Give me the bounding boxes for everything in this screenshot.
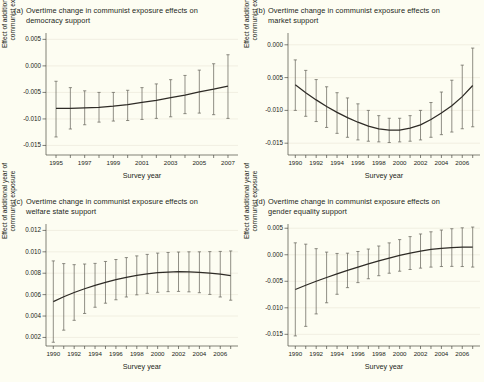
panel-c-y-axis-label: Effect of additional year ofcommunist ex… [1,151,17,251]
y-tick-label-0: 0.005 [246,224,283,231]
x-tick-label-3: 2001 [128,159,156,166]
y-axis-label-line2: communist exposure [9,0,17,60]
panel-c-title: (c)Overtime change in communist exposure… [26,197,238,217]
panel-d-y-axis-label: Effect of additional year ofcommunist ex… [243,151,259,251]
panel-a-title: (a)Overtime change in communist exposure… [26,6,238,26]
figure-container: (a)Overtime change in communist exposure… [0,0,484,382]
fitted-line [295,85,472,130]
panel-b-title: (b)Overtime change in communist exposure… [268,6,480,26]
x-tick-label-2: 1999 [99,159,127,166]
panel-c: (c)Overtime change in communist exposure… [0,191,242,382]
x-tick-label-0: 1995 [42,159,70,166]
panel-a-x-axis-label: Survey year [46,171,238,180]
y-axis-label-line2: communist exposure [251,0,259,60]
panel-d-title: (d)Overtime change in communist exposure… [268,197,480,217]
panel-a-title-line2: democracy support [26,16,238,26]
fitted-line [53,272,230,302]
y-axis-label-line1: Effect of additional year of [1,151,9,251]
x-tick-label-4: 2003 [157,159,185,166]
y-tick-label-3: -0.010 [246,304,283,311]
panel-a-title-line1: Overtime change in communist exposure ef… [26,6,238,16]
panel-b-title-line2: market support [268,16,480,26]
panel-a-y-axis-label: Effect of additional year ofcommunist ex… [1,0,17,60]
y-tick-label-0: 0.000 [246,41,283,48]
panel-c-x-axis-label: Survey year [46,362,238,371]
panel-b: (b)Overtime change in communist exposure… [242,0,484,191]
x-tick-label-5: 2005 [185,159,213,166]
y-axis-label-line1: Effect of additional year of [1,0,9,60]
panel-b-y-axis-label: Effect of additional year ofcommunist ex… [243,0,259,60]
x-tick-label-8: 2006 [448,159,476,166]
panel-d-title-line2: gender equality support [268,207,480,217]
y-tick-label-0: 0.005 [4,35,41,42]
panel-b-title-line1: Overtime change in communist exposure ef… [268,6,480,16]
y-axis-label-line1: Effect of additional year of [243,0,251,60]
x-tick-label-8: 2006 [448,350,476,357]
fitted-line [295,247,472,289]
y-tick-label-3: 0.006 [4,291,41,298]
y-axis-label-line2: communist exposure [9,151,17,251]
y-tick-label-3: -0.015 [246,139,283,146]
panel-b-x-axis-label: Survey year [288,171,480,180]
y-tick-label-4: 0.004 [4,312,41,319]
y-tick-label-2: -0.005 [246,277,283,284]
y-tick-label-1: 0.000 [246,251,283,258]
x-tick-label-6: 2007 [214,159,242,166]
y-tick-label-1: 0.000 [4,62,41,69]
y-tick-label-0: 0.012 [4,226,41,233]
y-tick-label-1: 0.010 [4,248,41,255]
panel-d-title-line1: Overtime change in communist exposure ef… [268,197,480,207]
panel-c-title-line1: Overtime change in communist exposure ef… [26,197,238,207]
y-tick-label-2: -0.005 [4,88,41,95]
panel-d-x-axis-label: Survey year [288,362,480,371]
panel-c-title-line2: welfare state support [26,207,238,217]
panel-d: (d)Overtime change in communist exposure… [242,191,484,382]
y-tick-label-2: 0.008 [4,269,41,276]
y-tick-label-4: -0.015 [246,330,283,337]
y-tick-label-3: -0.010 [4,115,41,122]
x-tick-label-8: 2006 [206,350,234,357]
y-axis-label-line2: communist exposure [251,151,259,251]
y-tick-label-4: -0.015 [4,141,41,148]
y-axis-label-line1: Effect of additional year of [243,151,251,251]
x-tick-label-1: 1997 [71,159,99,166]
y-tick-label-5: 0.002 [4,333,41,340]
y-tick-label-2: -0.010 [246,106,283,113]
panel-a: (a)Overtime change in communist exposure… [0,0,242,191]
y-tick-label-1: 0.005 [246,74,283,81]
